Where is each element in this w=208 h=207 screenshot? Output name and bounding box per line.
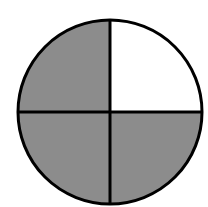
- fraction-circle: [0, 0, 208, 207]
